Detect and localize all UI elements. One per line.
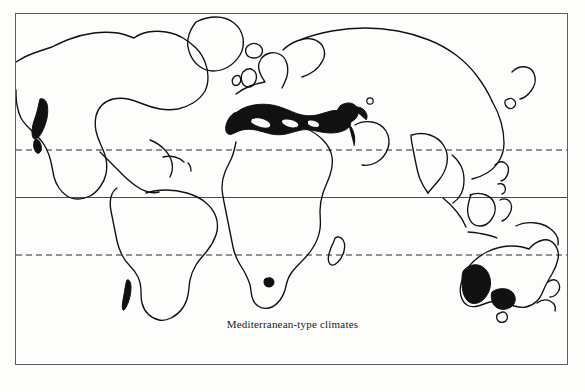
japan-outline — [512, 67, 535, 99]
cape-region-shading — [264, 278, 274, 287]
mediterranean-basin-shading — [226, 104, 351, 135]
mediterranean-climate-shading — [32, 98, 515, 310]
world-map — [0, 0, 585, 392]
iceland-outline — [246, 44, 263, 59]
cyprus-shading — [367, 98, 373, 104]
greenland-outline — [188, 17, 244, 71]
central-america-outline — [100, 152, 159, 193]
new-zealand-south-outline — [537, 300, 555, 311]
lesser-antilles-outline — [188, 163, 191, 171]
india-west-outline — [411, 135, 428, 193]
new-zealand-north-outline — [548, 280, 560, 297]
scandinavia-outline — [283, 39, 325, 77]
california-shading — [32, 99, 48, 139]
philippines-south-outline — [498, 184, 505, 194]
south-australia-shading — [491, 289, 515, 310]
zagros-spur-shading — [348, 123, 355, 146]
levant-anatolia-shading — [338, 103, 359, 122]
asia-east-outline — [472, 101, 504, 179]
madagascar-outline — [328, 237, 344, 265]
graticule — [16, 150, 567, 255]
sulawesi-outline — [500, 199, 512, 221]
central-chile-shading — [122, 280, 131, 310]
climate-map-figure: Mediterranean-type climates — [0, 0, 585, 392]
borneo-outline — [468, 194, 496, 227]
figure-caption: Mediterranean-type climates — [0, 318, 585, 330]
japan-south-outline — [505, 99, 516, 109]
southwest-australia-shading — [462, 265, 491, 304]
southeast-asia-outline — [452, 155, 464, 203]
baja-california-shading — [34, 139, 42, 153]
africa-outline — [222, 121, 332, 308]
ireland-outline — [232, 76, 240, 86]
europe-outline — [236, 53, 288, 94]
arabia-outline — [355, 122, 389, 166]
java-outline — [468, 232, 497, 238]
india-outline — [412, 134, 447, 194]
british-isles-outline — [241, 69, 256, 87]
asia-north-outline — [300, 28, 492, 101]
caribbean-islands-outline — [163, 156, 184, 162]
gulf-coast-outline — [150, 140, 172, 177]
